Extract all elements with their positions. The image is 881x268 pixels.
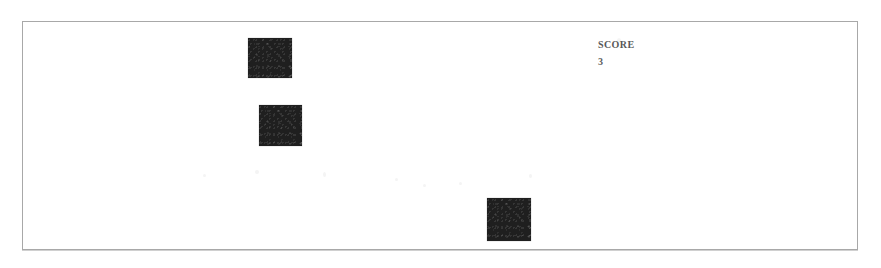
scan-artifact bbox=[203, 174, 206, 177]
scan-artifact bbox=[323, 172, 326, 177]
game-screenshot: SCORE 3 bbox=[0, 0, 881, 268]
scan-artifact bbox=[423, 184, 426, 187]
game-block[interactable] bbox=[248, 38, 292, 78]
score-label: SCORE bbox=[598, 39, 634, 50]
score-hud: SCORE 3 bbox=[598, 39, 634, 67]
scan-artifact bbox=[395, 178, 398, 181]
game-block[interactable] bbox=[259, 105, 302, 146]
game-field-frame: SCORE 3 bbox=[22, 21, 858, 250]
scan-artifact bbox=[459, 182, 462, 185]
scan-artifact bbox=[529, 174, 532, 178]
scan-artifact bbox=[255, 170, 259, 174]
score-value: 3 bbox=[598, 56, 634, 67]
game-block[interactable] bbox=[487, 198, 531, 241]
